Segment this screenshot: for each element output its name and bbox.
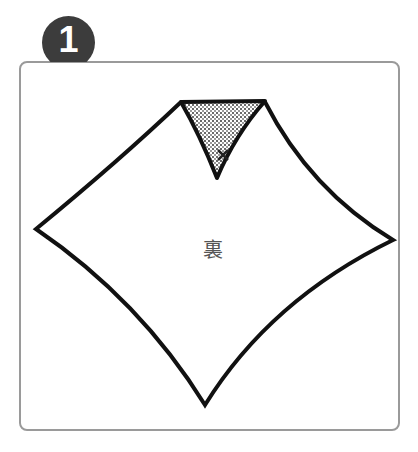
folded-cloth-diagram [0, 0, 418, 452]
folded-flap [181, 101, 265, 178]
reverse-side-label: 裏 [198, 238, 228, 262]
